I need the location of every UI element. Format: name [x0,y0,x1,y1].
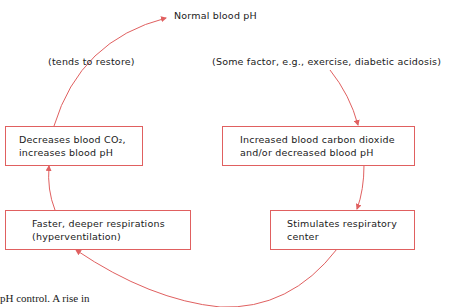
box-decreases-co2: Decreases blood CO₂, increases blood pH [5,126,143,166]
some-factor-note: (Some factor, e.g., exercise, diabetic a… [212,56,441,67]
box-line: increases blood pH [19,146,142,159]
arrow-increased-to-stimulates [357,165,364,209]
arrow-stimulates-to-faster [76,249,337,307]
arrow-restore-to-normal [54,18,166,126]
box-line: and/or decreased blood pH [240,146,414,159]
box-line: Faster, deeper respirations [32,217,190,230]
box-line: Decreases blood CO₂, [19,133,142,146]
box-line: Stimulates respiratory [287,217,414,230]
normal-blood-ph-label: Normal blood pH [174,10,257,21]
arrow-factor-to-increased [330,70,358,125]
box-increased-co2: Increased blood carbon dioxide and/or de… [222,126,415,166]
box-line: (hyperventilation) [32,230,190,243]
tends-to-restore-note: (tends to restore) [48,56,135,67]
box-stimulates-center: Stimulates respiratory center [270,210,415,250]
box-line: Increased blood carbon dioxide [240,133,414,146]
caption-fragment: pH control. A rise in [0,292,90,304]
box-line: center [287,230,414,243]
arrow-faster-to-decreases [49,166,55,210]
box-faster-respirations: Faster, deeper respirations (hyperventil… [5,210,191,250]
